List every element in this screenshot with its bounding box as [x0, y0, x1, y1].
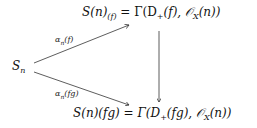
label-bottom-arrow: αn(fg): [55, 90, 79, 100]
top-sub: (f): [107, 12, 116, 21]
top-right: = Γ(D: [117, 5, 157, 19]
top-right2: (f), 𝒪: [164, 5, 193, 19]
node-bottom: S(n)(fg) = Γ(D+(fg), 𝒪X(n)): [73, 107, 231, 122]
arrow-top: [34, 25, 129, 63]
top-left: S(n): [82, 5, 107, 19]
arrow-bottom: [34, 72, 129, 105]
node-top: S(n)(f) = Γ(D+(f), 𝒪X(n)): [82, 6, 220, 21]
top-label-rest: (f): [64, 35, 73, 44]
top-sub2: +: [157, 12, 164, 21]
bottom-right2: (n)): [210, 106, 232, 120]
bottom-left: S(n)(fg) = Γ(D: [73, 106, 160, 120]
source-symbol: S: [12, 59, 20, 73]
bottom-sub: +: [160, 113, 167, 122]
bottom-right: (fg), 𝒪: [167, 106, 204, 120]
top-right3: (n)): [199, 5, 221, 19]
source-sub: n: [20, 66, 25, 75]
bottom-label-rest: (fg): [64, 89, 78, 98]
node-source: Sn: [12, 60, 25, 75]
label-top-arrow: αn(f): [55, 36, 73, 46]
